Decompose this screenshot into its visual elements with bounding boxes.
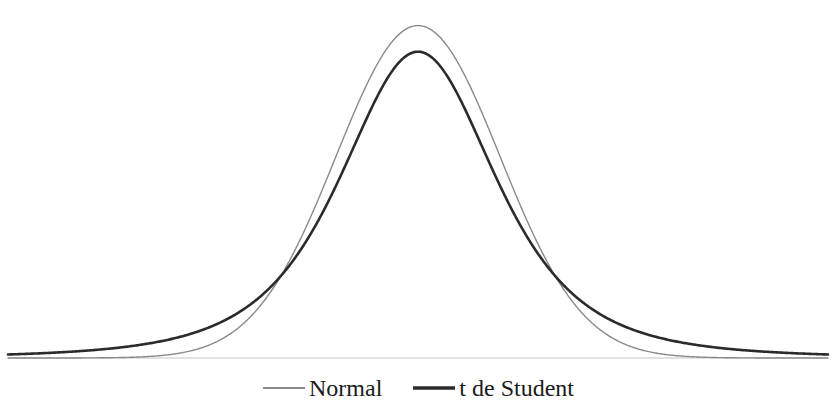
chart-legend: Normal t de Student xyxy=(0,368,836,408)
legend-line-normal-icon xyxy=(262,383,306,393)
curves-canvas xyxy=(0,0,836,368)
distribution-comparison-chart: Normal t de Student xyxy=(0,0,836,408)
legend-line-t-student-icon xyxy=(412,383,456,393)
legend-label-normal: Normal xyxy=(309,375,382,401)
legend-item-t-student: t de Student xyxy=(412,375,574,401)
normal-distribution-curve xyxy=(8,26,828,358)
plot-area xyxy=(0,0,836,368)
t-student-distribution-curve xyxy=(8,52,828,355)
legend-label-t-student: t de Student xyxy=(459,375,574,401)
legend-item-normal: Normal xyxy=(262,375,382,401)
